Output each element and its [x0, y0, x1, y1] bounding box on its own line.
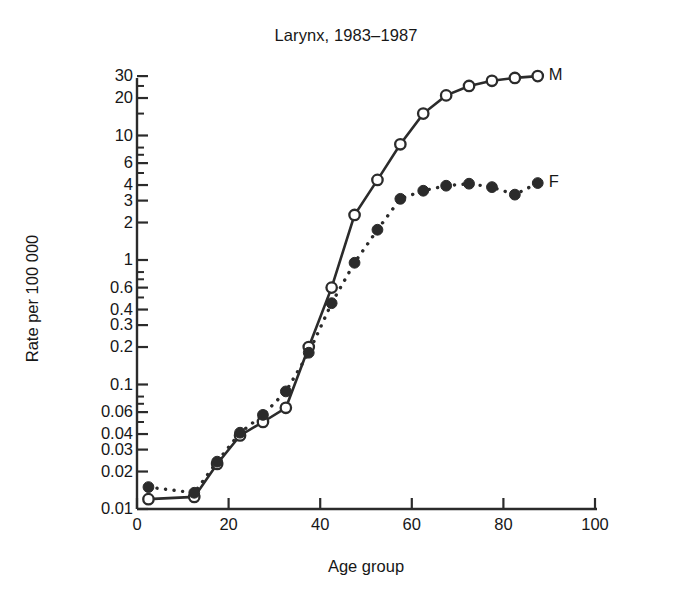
x-tick-label: 40: [290, 516, 350, 533]
y-tick-label: 0.1: [110, 376, 133, 393]
y-tick-label: 2: [124, 214, 133, 231]
data-point-f: [372, 224, 383, 235]
data-point-m: [349, 210, 359, 220]
x-tick-label: 60: [382, 516, 442, 533]
data-point-f: [349, 257, 360, 268]
data-point-f: [303, 347, 314, 358]
y-tick-label: 20: [115, 89, 133, 106]
data-point-f: [326, 298, 337, 309]
series-label-m: M: [549, 65, 563, 84]
data-point-m: [464, 81, 474, 91]
data-point-f: [418, 185, 429, 196]
data-point-f: [212, 456, 223, 467]
series-line-m: [148, 76, 537, 499]
x-tick-label: 80: [473, 516, 533, 533]
data-point-f: [487, 182, 498, 193]
y-tick-label: 0.3: [110, 316, 133, 333]
data-point-f: [189, 487, 200, 498]
data-point-f: [532, 178, 543, 189]
data-point-f: [464, 178, 475, 189]
x-tick-label: 20: [199, 516, 259, 533]
series-line-f: [148, 183, 537, 493]
data-point-f: [143, 482, 154, 493]
data-point-m: [372, 175, 382, 185]
data-point-f: [441, 180, 452, 191]
y-tick-label: 0.03: [101, 441, 133, 458]
y-tick-label: 30: [115, 67, 133, 84]
data-point-f: [509, 189, 520, 200]
data-point-m: [143, 494, 153, 504]
x-tick-label: 0: [107, 516, 167, 533]
y-tick-label: 0.01: [101, 500, 133, 517]
data-point-m: [441, 90, 451, 100]
data-point-m: [487, 76, 497, 86]
y-tick-label: 1: [124, 251, 133, 268]
series-label-f: F: [549, 172, 559, 191]
y-tick-label: 10: [115, 127, 133, 144]
y-tick-label: 0.2: [110, 338, 133, 355]
chart-figure: Larynx, 1983–1987 Rate per 100 000 Age g…: [0, 0, 692, 608]
data-point-m: [326, 282, 336, 292]
data-point-m: [395, 139, 405, 149]
data-point-f: [258, 409, 269, 420]
data-point-m: [281, 403, 291, 413]
y-tick-label: 6: [124, 154, 133, 171]
x-tick-label: 100: [565, 516, 625, 533]
y-tick-label: 0.6: [110, 279, 133, 296]
data-point-f: [395, 193, 406, 204]
y-tick-label: 0.02: [101, 463, 133, 480]
y-tick-label: 3: [124, 192, 133, 209]
data-point-m: [418, 108, 428, 118]
data-point-f: [235, 427, 246, 438]
data-point-m: [510, 73, 520, 83]
data-point-f: [280, 386, 291, 397]
data-point-m: [533, 71, 543, 81]
y-tick-label: 0.06: [101, 403, 133, 420]
